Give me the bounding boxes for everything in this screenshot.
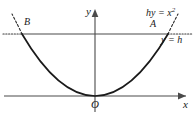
y-axis-arrowhead <box>92 9 99 17</box>
point-a-label: A <box>150 19 156 29</box>
point-b-label: B <box>24 17 30 27</box>
x-axis-label: x <box>183 99 188 110</box>
chord-equation-label: y = h <box>161 35 182 45</box>
parabola-figure: y x O A B hy = x2 y = h <box>0 0 196 119</box>
origin-label: O <box>91 99 99 110</box>
parabola-equation-exponent: 2 <box>172 6 176 14</box>
parabola-equation-base: hy = x <box>146 7 172 18</box>
y-axis-label: y <box>86 6 91 17</box>
parabola-equation-label: hy = x2 <box>146 7 175 18</box>
parabola-dashed-extension-left <box>12 14 22 34</box>
